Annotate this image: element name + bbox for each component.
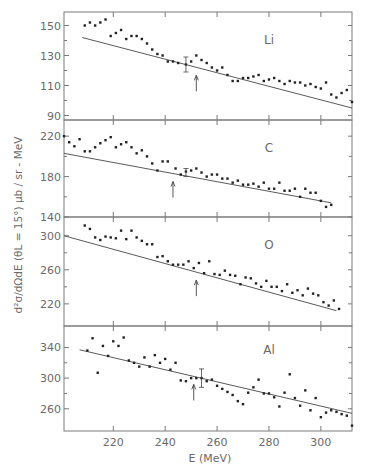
- fit-line: [82, 38, 352, 109]
- y-tick-label: 340: [40, 341, 61, 354]
- x-tick-label: 260: [207, 436, 228, 449]
- data-point: [167, 160, 169, 162]
- data-point: [141, 149, 143, 151]
- data-point: [278, 181, 280, 183]
- data-point: [99, 239, 101, 241]
- data-point: [115, 237, 117, 239]
- data-point: [314, 192, 316, 194]
- data-point: [94, 236, 96, 238]
- data-point: [296, 289, 298, 291]
- data-point: [351, 424, 353, 426]
- data-point: [206, 62, 208, 64]
- data-point: [252, 182, 254, 184]
- data-point: [146, 155, 148, 157]
- data-point: [206, 380, 208, 382]
- data-point: [333, 299, 335, 301]
- arrow-marker-icon: [194, 75, 198, 91]
- data-point: [156, 53, 158, 55]
- data-point: [141, 240, 143, 242]
- data-point: [351, 101, 353, 103]
- data-point: [135, 236, 137, 238]
- data-point: [302, 294, 304, 296]
- panel-o: 220260300O: [40, 217, 352, 326]
- data-point: [63, 135, 65, 137]
- panel-frame: [64, 12, 352, 120]
- data-point: [200, 59, 202, 61]
- data-point: [91, 337, 93, 339]
- data-point: [320, 416, 322, 418]
- data-point: [174, 167, 176, 169]
- data-point: [94, 24, 96, 26]
- data-point: [226, 391, 228, 393]
- data-point: [211, 66, 213, 68]
- x-axis: 220240260280300: [103, 436, 332, 449]
- data-point: [335, 411, 337, 413]
- y-tick-label: 300: [40, 230, 61, 243]
- data-point: [325, 206, 327, 208]
- data-point: [169, 368, 171, 370]
- fit-line: [64, 236, 336, 311]
- y-tick-label: 130: [40, 50, 61, 63]
- data-point: [294, 188, 296, 190]
- data-point: [167, 60, 169, 62]
- data-point: [120, 229, 122, 231]
- data-point: [226, 177, 228, 179]
- fit-line: [64, 153, 331, 203]
- data-point: [314, 397, 316, 399]
- data-point: [257, 378, 259, 380]
- data-point: [325, 81, 327, 83]
- data-point: [187, 260, 189, 262]
- data-point: [102, 345, 104, 347]
- data-point: [84, 150, 86, 152]
- data-point: [112, 340, 114, 342]
- data-point: [299, 196, 301, 198]
- data-point: [237, 80, 239, 82]
- data-point: [330, 204, 332, 206]
- data-point: [174, 362, 176, 364]
- data-point: [89, 21, 91, 23]
- data-point: [346, 89, 348, 91]
- arrow-marker-icon: [171, 182, 175, 198]
- data-point: [216, 385, 218, 387]
- data-point: [177, 263, 179, 265]
- data-point: [73, 145, 75, 147]
- data-point: [190, 60, 192, 62]
- data-point: [304, 84, 306, 86]
- data-point: [68, 141, 70, 143]
- chart-panels: 90110130150Li140180220C220260300O2603003…: [40, 12, 353, 431]
- data-point: [161, 54, 163, 56]
- data-point: [309, 409, 311, 411]
- data-point: [242, 77, 244, 79]
- y-tick-label: 220: [40, 130, 61, 143]
- data-point: [177, 62, 179, 64]
- data-point: [294, 81, 296, 83]
- data-point: [268, 188, 270, 190]
- data-point: [115, 146, 117, 148]
- x-axis-label: E (MeV): [189, 452, 232, 465]
- data-point: [273, 396, 275, 398]
- data-point: [172, 60, 174, 62]
- data-point: [216, 173, 218, 175]
- data-point: [312, 292, 314, 294]
- data-point: [218, 274, 220, 276]
- data-point: [231, 181, 233, 183]
- panel-al: 260300340Al: [40, 326, 353, 431]
- data-point: [325, 411, 327, 413]
- y-tick-label: 300: [40, 372, 61, 385]
- data-point: [330, 409, 332, 411]
- data-point: [206, 175, 208, 177]
- data-point: [340, 92, 342, 94]
- y-tick-label: 180: [40, 171, 61, 184]
- data-point: [120, 143, 122, 145]
- data-point: [265, 280, 267, 282]
- data-point: [263, 392, 265, 394]
- data-point: [231, 80, 233, 82]
- data-point: [107, 355, 109, 357]
- data-point: [221, 388, 223, 390]
- panel-label: O: [264, 238, 273, 252]
- data-point: [151, 162, 153, 164]
- data-point: [309, 192, 311, 194]
- data-point: [110, 35, 112, 37]
- data-point: [317, 294, 319, 296]
- data-point: [78, 138, 80, 140]
